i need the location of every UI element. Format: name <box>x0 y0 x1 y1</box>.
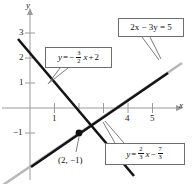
eq1-denominator: 2 <box>76 57 81 65</box>
equation-label-line1[interactable]: y = − 3 2 x + 2 <box>45 47 112 68</box>
x-axis-label: x <box>179 101 183 110</box>
equation-label-line3[interactable]: y = 2 3 x − 7 3 <box>105 143 185 165</box>
equation-text-line2: 2x − 3y = 5 <box>130 23 172 32</box>
leader-line-2a <box>142 37 159 60</box>
leader-line-point <box>76 137 79 152</box>
equation-label-line2[interactable]: 2x − 3y = 5 <box>118 18 184 37</box>
eq3-numerator-1: 2 <box>138 146 143 153</box>
eq1-variable: x <box>83 53 87 62</box>
y-tick-label-neg1: −1 <box>13 128 23 137</box>
eq3-numerator-2: 7 <box>158 146 163 153</box>
x-tick-label-4: 4 <box>125 114 130 123</box>
leader-line-3b <box>105 121 124 143</box>
eq1-fraction: 3 2 <box>76 50 81 65</box>
eq1-constant: 2 <box>94 53 99 62</box>
equation-text-line3: y = 2 3 x − 7 3 <box>126 147 164 162</box>
x-tick-label-1: 1 <box>52 114 57 123</box>
eq1-equals: = <box>63 53 68 62</box>
x-tick-label-5: 5 <box>150 114 155 123</box>
y-axis-label: y <box>26 1 30 10</box>
eq3-denominator-1: 3 <box>138 153 143 161</box>
eq3-equals: = <box>131 150 136 159</box>
eq1-sign: − <box>69 53 74 62</box>
equation-text-line1: y = − 3 2 x + 2 <box>58 50 99 65</box>
eq1-plus: + <box>88 53 93 62</box>
y-tick-label-1: 1 <box>19 78 24 87</box>
intersection-point-marker <box>76 130 83 137</box>
intersection-point-label: (2, −1) <box>58 156 83 165</box>
y-tick-label-2: 2 <box>19 53 24 62</box>
eq3-lhs: y <box>126 150 130 159</box>
eq3-variable: x <box>146 150 150 159</box>
eq1-numerator: 3 <box>76 50 81 57</box>
eq3-fraction-1: 2 3 <box>138 146 143 161</box>
y-tick-label-3: 3 <box>19 28 24 37</box>
eq3-fraction-2: 7 3 <box>158 146 163 161</box>
eq3-minus: − <box>151 150 156 159</box>
eq3-denominator-2: 3 <box>158 153 163 161</box>
eq1-lhs: y <box>58 53 62 62</box>
